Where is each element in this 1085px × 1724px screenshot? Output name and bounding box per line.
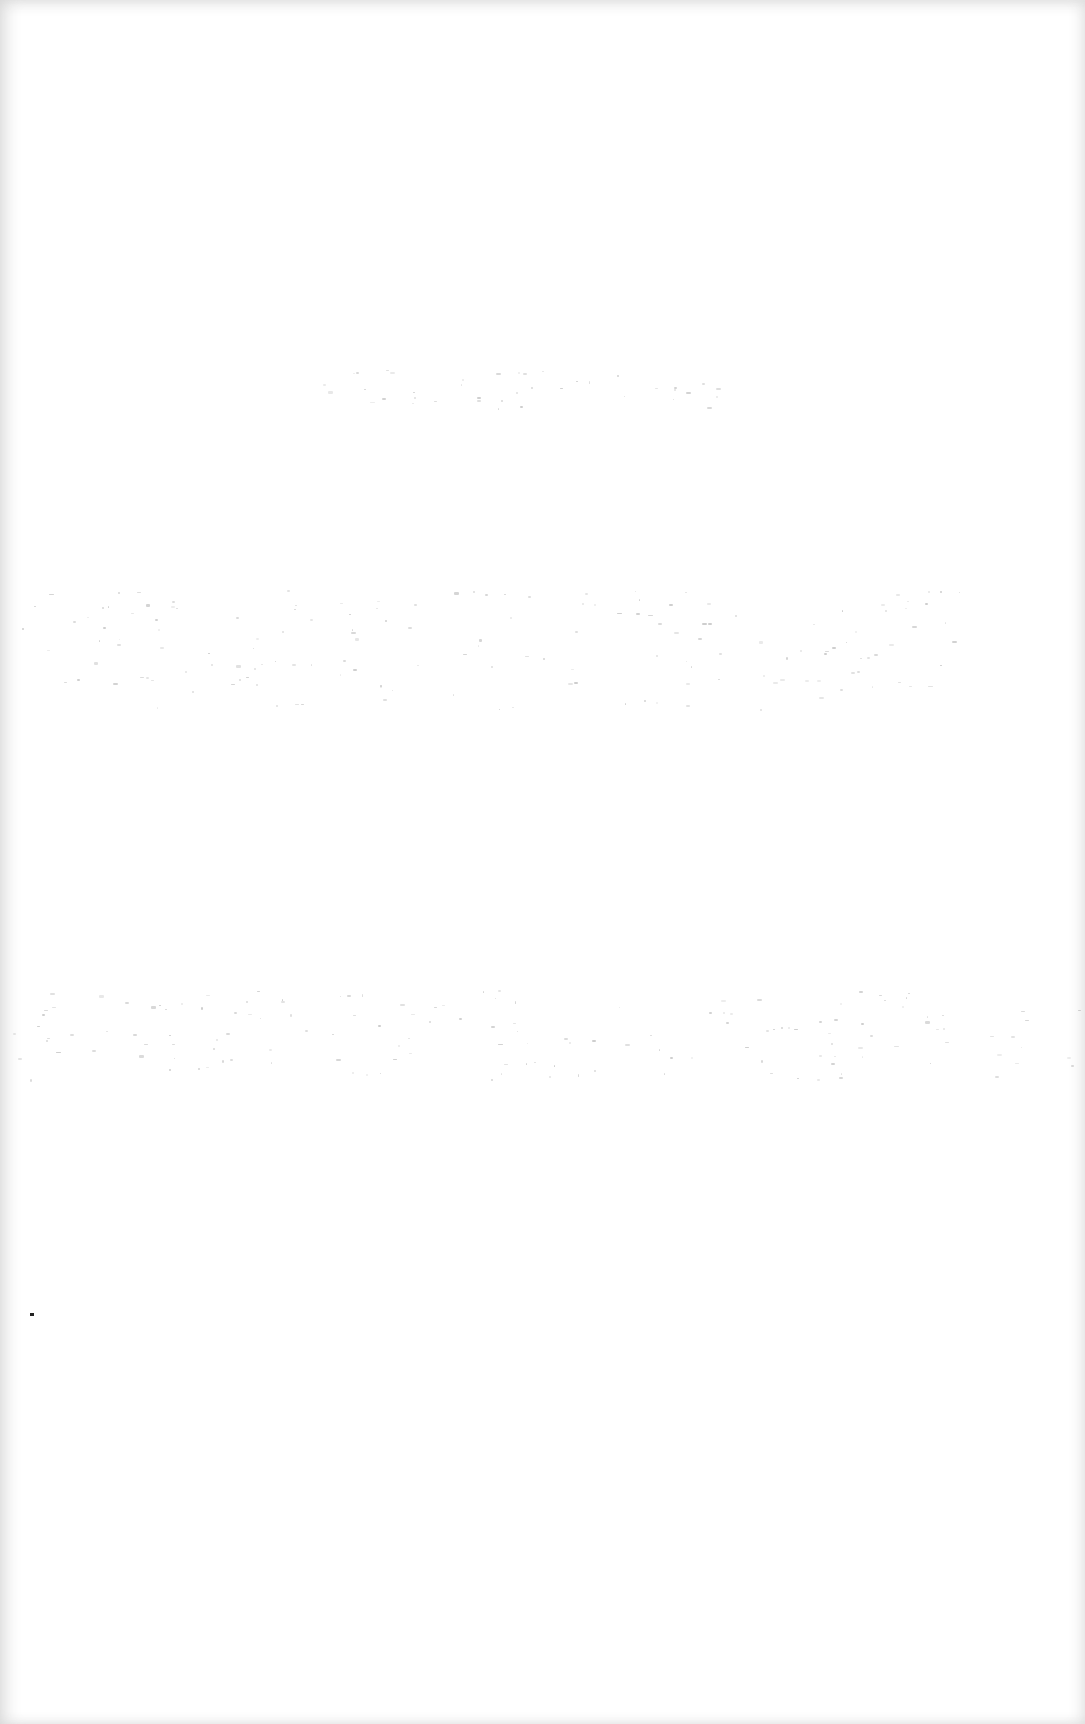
speck [531, 387, 532, 389]
speck [131, 613, 133, 614]
speck [172, 601, 175, 602]
speck [857, 671, 859, 673]
speck [340, 603, 344, 604]
speck [118, 592, 120, 594]
speck [995, 1076, 999, 1077]
speck [686, 392, 691, 394]
speck [352, 629, 354, 631]
speck [133, 1034, 137, 1036]
speck [287, 590, 290, 592]
speck [1011, 1036, 1014, 1038]
speck [485, 594, 488, 596]
speck [454, 592, 458, 594]
speck [839, 1077, 842, 1079]
speck [831, 1043, 833, 1044]
speck [543, 658, 544, 660]
speck [343, 660, 345, 662]
speck [49, 594, 54, 595]
speck [411, 1014, 416, 1015]
speck [158, 629, 159, 630]
speck [352, 1072, 354, 1073]
speck [685, 592, 687, 593]
speck [707, 407, 711, 409]
bleed-through-faint-title [0, 365, 1085, 415]
speck [155, 619, 158, 620]
speck [528, 596, 531, 597]
speck [246, 1001, 248, 1003]
speck [498, 990, 501, 991]
speck [103, 627, 106, 629]
speck [592, 1040, 597, 1042]
speck [498, 1044, 503, 1045]
speck [257, 991, 261, 992]
speck [117, 644, 121, 645]
speck [518, 372, 520, 374]
speck [990, 1036, 994, 1037]
speck [656, 702, 658, 704]
speck [353, 1015, 356, 1016]
speck [819, 1021, 823, 1023]
speck [370, 402, 375, 403]
speck [582, 603, 583, 605]
speck [355, 638, 359, 640]
speck [222, 1060, 224, 1062]
speck [578, 1074, 579, 1076]
speck [496, 373, 501, 375]
speck [73, 621, 76, 623]
speck [780, 679, 785, 681]
speck [674, 389, 676, 391]
speck [788, 1027, 790, 1028]
speck [686, 683, 690, 685]
speck [46, 1040, 47, 1042]
speck [872, 686, 873, 688]
speck [169, 1035, 171, 1036]
blank-page [0, 0, 1085, 1724]
speck [650, 1035, 651, 1037]
speck [231, 684, 235, 685]
speck [859, 991, 863, 993]
speck [576, 381, 578, 382]
speck [201, 1007, 203, 1009]
speck [658, 623, 662, 625]
speck [945, 1042, 948, 1043]
speck [855, 631, 857, 632]
speck [378, 1025, 381, 1026]
speck [940, 591, 941, 593]
speck [691, 1057, 693, 1059]
speck [527, 1043, 528, 1044]
speck [549, 1076, 551, 1077]
speck [477, 400, 481, 402]
speck [719, 653, 722, 655]
speck [828, 1033, 831, 1034]
speck [669, 604, 673, 606]
speck [925, 1021, 930, 1023]
speck [840, 689, 843, 691]
bleed-through-band-1 [0, 590, 1085, 710]
speck [50, 993, 55, 995]
speck [759, 641, 763, 643]
speck [817, 1079, 820, 1081]
speck [353, 373, 355, 374]
speck [945, 622, 946, 624]
speck [686, 705, 689, 707]
speck [773, 682, 777, 684]
speck [248, 1014, 252, 1015]
speck [477, 397, 481, 398]
speck [894, 1046, 899, 1047]
speck [907, 601, 909, 602]
speck [290, 1014, 292, 1016]
speck [356, 372, 359, 374]
speck [644, 700, 645, 701]
speck [146, 604, 150, 606]
speck [520, 406, 524, 408]
speck [786, 657, 788, 659]
speck [745, 1047, 749, 1049]
speck [400, 1004, 405, 1006]
speck [813, 624, 814, 626]
speck [516, 392, 517, 393]
speck [94, 662, 98, 664]
speck [674, 387, 677, 389]
speck [674, 632, 679, 634]
speck [761, 1060, 763, 1062]
speck [510, 617, 511, 619]
